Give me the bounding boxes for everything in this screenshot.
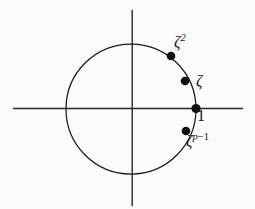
label-zeta-squared-exponent: 2 — [180, 32, 185, 43]
label-zeta-p-minus-1-exponent: p−1 — [192, 131, 209, 142]
exponent-minus-one: −1 — [198, 131, 209, 142]
point-zeta — [181, 77, 190, 86]
label-zeta: ζ — [196, 73, 202, 89]
point-zeta-squared — [167, 52, 176, 61]
label-one-base: 1 — [197, 107, 205, 124]
label-zeta-squared: ζ2 — [174, 34, 186, 50]
label-zeta-p-minus-1: ζp−1 — [186, 133, 209, 149]
label-one: 1 — [197, 108, 205, 124]
roots-of-unity-figure: ζ2 ζ 1 ζp−1 — [0, 0, 255, 209]
figure-canvas — [0, 0, 255, 209]
label-zeta-base: ζ — [196, 72, 202, 89]
